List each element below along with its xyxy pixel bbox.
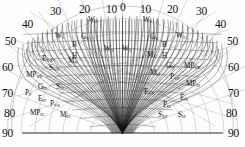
axis-tick-left-4: 90 <box>2 128 13 140</box>
point-label-subscript: H <box>196 83 199 88</box>
point-label-left-mph: MPH <box>30 110 44 117</box>
point-label-left-evs: EVS <box>42 56 52 63</box>
point-label-subscript: VF <box>194 65 200 70</box>
point-label-base: B <box>162 41 167 49</box>
axis-tick-top-5: 10 <box>140 4 151 16</box>
point-label-left-mh: MH <box>60 112 70 119</box>
axis-tick-top-1: 30 <box>50 6 61 18</box>
point-label-subscript: VF <box>174 76 180 81</box>
point-label-subscript: VF <box>162 114 168 119</box>
point-label-subscript: H <box>156 72 159 77</box>
axis-tick-right-2: 70 <box>228 88 239 100</box>
point-label-base: W <box>88 16 95 24</box>
point-label-left-gv: GV <box>81 34 89 41</box>
axis-tick-left-3: 80 <box>4 108 15 120</box>
point-label-base: H <box>162 52 167 60</box>
point-label-subscript: 1 <box>183 35 185 40</box>
point-label-right-ph: PH <box>163 102 170 109</box>
point-label-left-mv: MV <box>68 58 78 65</box>
point-label-right-gh: GH <box>166 63 174 70</box>
point-label-subscript: H <box>40 112 43 117</box>
point-label-subscript: VS <box>54 103 60 108</box>
point-label-right-w1: W1 <box>176 33 185 40</box>
point-label-right-mpvf: MPVF <box>184 63 200 70</box>
point-label-subscript: H <box>43 86 46 91</box>
point-label-subscript: H <box>182 114 185 119</box>
point-label-subscript: H <box>171 65 174 70</box>
point-label-subscript: H <box>167 104 170 109</box>
point-label-right-gv: GV <box>150 34 158 41</box>
point-label-base: MP <box>30 109 40 117</box>
point-label-left-pf: PF <box>25 90 31 97</box>
point-label-subscript: H <box>42 98 45 103</box>
point-label-subscript: F <box>29 92 32 97</box>
axis-tick-right-0: 50 <box>227 36 238 48</box>
point-label-left-w1: W1 <box>55 33 64 40</box>
point-label-subscript: H <box>66 114 69 119</box>
point-label-subscript: V <box>86 36 89 41</box>
axis-tick-top-6: 20 <box>167 4 178 16</box>
point-label-subscript: 2 <box>150 19 152 24</box>
point-label-subscript: VF <box>148 91 154 96</box>
point-label-right-mph: MPH <box>186 81 200 88</box>
point-label-base: W <box>55 32 62 40</box>
point-label-base: MP <box>186 80 196 88</box>
axis-tick-left-2: 70 <box>2 88 13 100</box>
axis-tick-left-1: 60 <box>2 62 13 74</box>
point-label-left-eh: EH <box>38 96 46 103</box>
point-label-base: W <box>104 45 111 53</box>
nomogram-figure: 4030201001020304050607080905060708090 W1… <box>0 0 245 147</box>
axis-tick-top-8: 40 <box>215 19 226 31</box>
point-label-right-eh: EH <box>180 95 188 102</box>
axis-tick-left-0: 50 <box>5 36 16 48</box>
point-label-base: MP <box>184 62 194 70</box>
point-label-right-evf: EVF <box>144 89 154 96</box>
point-label-subscript: V <box>155 36 158 41</box>
axis-tick-right-3: 80 <box>226 108 237 120</box>
point-label-base: MP <box>26 71 36 79</box>
point-label-subscript: 1 <box>62 35 64 40</box>
point-label-subscript: 3 <box>129 48 131 53</box>
point-label-subscript: H <box>60 86 63 91</box>
point-label-base: W <box>143 16 150 24</box>
axis-tick-top-4: 0 <box>120 2 126 14</box>
point-label-subscript: 2 <box>95 19 97 24</box>
point-label-right-h: H <box>162 53 167 60</box>
point-label-left-pvs: PVS <box>50 101 60 108</box>
point-label-left-svs: SVS <box>49 65 59 72</box>
point-label-subscript: VS <box>36 74 42 79</box>
point-label-right-sh: SH <box>178 112 185 119</box>
point-label-base: B <box>72 41 77 49</box>
point-label-left-mpvs: MPVS <box>26 72 42 79</box>
axis-tick-top-2: 20 <box>79 4 90 16</box>
point-label-left-gh: GH <box>38 84 46 91</box>
axis-tick-top-3: 10 <box>106 4 117 16</box>
point-label-right-pvf: PVF <box>170 74 180 81</box>
point-label-subscript: H <box>184 97 187 102</box>
point-label-right-mh: MH <box>150 70 160 77</box>
point-label-right-w2: W2 <box>143 17 152 24</box>
point-label-subscript: VS <box>53 67 59 72</box>
point-label-right-svf: SVF <box>158 112 168 119</box>
point-label-base: W <box>176 32 183 40</box>
point-label-base: W <box>122 45 129 53</box>
point-label-left-w3: W3 <box>104 46 113 53</box>
point-label-right-w3: W3 <box>122 46 131 53</box>
point-label-right-b: B <box>162 42 167 49</box>
point-label-left-sh: SH <box>56 84 63 91</box>
axis-tick-top-7: 30 <box>196 6 207 18</box>
point-label-subscript: V <box>153 54 156 59</box>
axis-tick-right-1: 60 <box>228 62 239 74</box>
point-label-subscript: V <box>74 60 77 65</box>
point-label-subscript: 3 <box>111 48 113 53</box>
point-label-left-b: B <box>72 42 77 49</box>
point-label-left-w2: W2 <box>88 17 97 24</box>
axis-tick-right-4: 90 <box>228 128 239 140</box>
axis-tick-top-0: 40 <box>22 19 33 31</box>
point-label-right-mv: MV <box>147 52 157 59</box>
point-label-subscript: VS <box>46 58 52 63</box>
